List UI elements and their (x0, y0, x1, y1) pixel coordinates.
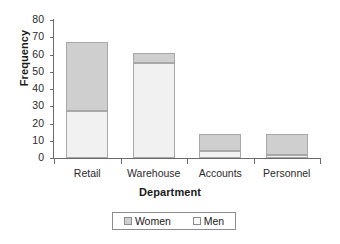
y-axis-tick-label: 80 (32, 13, 44, 25)
y-axis-tick-label: 0 (38, 151, 44, 163)
y-axis-tick: 30 (0, 106, 54, 107)
chart-legend: Women Men (112, 212, 236, 230)
y-axis-tick: 0 (0, 158, 54, 159)
y-axis-tick-label: 10 (32, 134, 44, 146)
x-axis-category-label: Personnel (237, 167, 337, 179)
legend-swatch-women-icon (124, 217, 132, 225)
bar-segment-men (66, 111, 108, 158)
bar (133, 20, 175, 158)
y-axis-tick-label: 60 (32, 48, 44, 60)
legend-label-women: Women (135, 215, 171, 227)
y-axis-tick: 80 (0, 20, 54, 21)
bar-chart: Frequency 01020304050607080 RetailWareho… (0, 0, 340, 244)
y-axis-tick: 70 (0, 37, 54, 38)
legend-item-men: Men (193, 215, 224, 227)
x-axis-tick-mark (187, 159, 188, 164)
bar-segment-men (266, 155, 308, 158)
legend-swatch-men-icon (193, 217, 201, 225)
y-axis-tick: 40 (0, 89, 54, 90)
x-axis-tick-mark (54, 159, 55, 164)
x-axis-title: Department (0, 186, 340, 198)
y-axis-tick: 50 (0, 72, 54, 73)
bar-segment-men (133, 63, 175, 158)
y-axis-tick: 10 (0, 141, 54, 142)
bar-segment-women (199, 134, 241, 151)
y-axis-tick-label: 20 (32, 117, 44, 129)
bar-segment-men (199, 151, 241, 158)
bar-segment-women (266, 134, 308, 155)
y-axis-tick-label: 30 (32, 99, 44, 111)
y-axis-tick-label: 50 (32, 65, 44, 77)
y-axis-title: Frequency (18, 0, 30, 118)
bar-segment-women (66, 42, 108, 111)
bar (66, 20, 108, 158)
y-axis-tick-label: 40 (32, 82, 44, 94)
bar (199, 20, 241, 158)
x-axis-tick-mark (320, 159, 321, 164)
legend-item-women: Women (124, 215, 171, 227)
y-axis-tick: 20 (0, 124, 54, 125)
legend-label-men: Men (204, 215, 224, 227)
x-axis-tick-mark (254, 159, 255, 164)
plot-area (54, 20, 320, 158)
y-axis-tick-label: 70 (32, 30, 44, 42)
x-axis-tick-mark (121, 159, 122, 164)
y-axis-tick: 60 (0, 55, 54, 56)
bar (266, 20, 308, 158)
bar-segment-women (133, 53, 175, 63)
